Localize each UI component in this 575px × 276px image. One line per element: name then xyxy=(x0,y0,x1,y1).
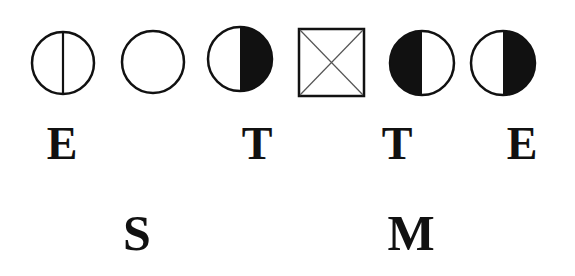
label-s: S xyxy=(123,208,151,258)
label-e-right: E xyxy=(507,121,538,167)
circle-empty-icon xyxy=(122,31,184,93)
label-m: M xyxy=(387,208,434,258)
symbol-row xyxy=(0,0,575,120)
label-t-right: T xyxy=(382,121,413,167)
circle-right-half-filled-icon xyxy=(471,31,535,95)
label-e-left: E xyxy=(47,121,78,167)
circle-left-half-filled-icon xyxy=(390,31,454,95)
circle-divided-icon xyxy=(32,32,94,94)
square-crossed-icon xyxy=(299,29,364,96)
label-t-left: T xyxy=(242,121,273,167)
circle-right-half-filled-icon xyxy=(208,27,272,91)
